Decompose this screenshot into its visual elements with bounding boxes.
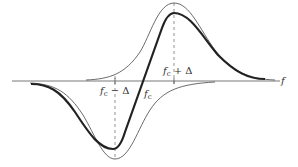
label-fc-plus-delta: fc + Δ (163, 66, 193, 78)
label-fc-minus-delta: fc − Δ (100, 86, 130, 98)
axis-label-f: f (281, 76, 285, 86)
frequency-discriminator-diagram: f fc − Δ fc fc + Δ (0, 0, 298, 167)
label-fc: fc (144, 89, 152, 101)
diagram-canvas (0, 0, 298, 167)
